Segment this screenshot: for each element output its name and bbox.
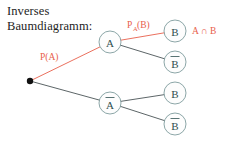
node-a-label: A — [106, 37, 114, 49]
edge-label-p-a-b-main: P — [127, 20, 132, 30]
tree-diagram-figure: Inverses Baumdiagramm: A A B B B B — [0, 0, 226, 142]
outcome-label-a-intersect-b: A ∩ B — [192, 26, 216, 36]
branch-root-to-abar — [30, 81, 110, 103]
node-abar-label: A — [106, 99, 114, 111]
node-b1-label: B — [171, 26, 178, 38]
tree-graphic: A A B B B B P(A) P A (B) A ∩ B — [0, 0, 226, 142]
edge-label-p-a-b-rest: (B) — [137, 20, 150, 31]
edge-label-p-a: P(A) — [40, 52, 58, 63]
root-node-dot — [27, 78, 33, 84]
node-bbar1-label: B — [171, 58, 178, 70]
node-b2-label: B — [171, 88, 178, 100]
node-bbar2-label: B — [171, 120, 178, 132]
edge-label-p-a-b: P A (B) — [127, 20, 150, 32]
